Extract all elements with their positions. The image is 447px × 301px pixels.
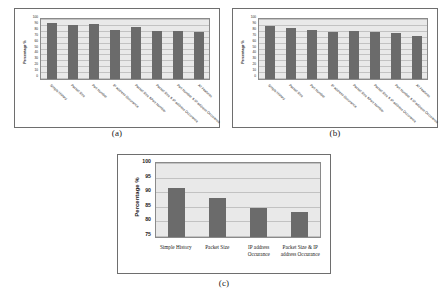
panel-c-plot-area: [155, 162, 321, 238]
y-tick-label: 10: [252, 69, 256, 72]
y-tick-label: 60: [34, 40, 38, 43]
bar: [89, 24, 99, 79]
bar: [370, 32, 380, 79]
bar: [286, 28, 296, 79]
y-tick-label: 100: [142, 159, 151, 164]
panel-a-plot-area: [40, 18, 210, 80]
bar-group: [259, 19, 427, 79]
bar: [209, 198, 226, 237]
x-tick-label: Simple History: [266, 84, 285, 101]
bar: [265, 26, 275, 79]
x-tick-label: Packet Size & IP address Occurance: [373, 84, 417, 124]
y-tick-label: 50: [34, 46, 38, 49]
y-tick-label: 80: [34, 28, 38, 31]
bar-group: [156, 163, 320, 237]
y-tick-label: 90: [252, 22, 256, 25]
y-tick-label: 20: [252, 64, 256, 67]
bar: [47, 23, 57, 79]
y-tick-label: 90: [145, 189, 151, 194]
panel-a: Percentage % 1009080706050403020100 Simp…: [14, 8, 220, 136]
panel-b-y-ticks: 1009080706050403020100: [240, 18, 256, 80]
y-tick-label: 30: [34, 58, 38, 61]
y-tick-label: 50: [252, 46, 256, 49]
y-tick-label: 70: [252, 34, 256, 37]
y-tick-label: 85: [145, 203, 151, 208]
y-tick-label: 80: [252, 28, 256, 31]
panel-b-x-axis-labels: Simple HistoryPacket SizePort NumberIP a…: [258, 82, 428, 128]
bar: [194, 32, 204, 79]
y-tick-label: 90: [34, 22, 38, 25]
x-tick-label: Port Number: [309, 84, 326, 99]
x-tick-label: Simple History: [48, 84, 67, 101]
bar: [168, 188, 185, 237]
y-tick-label: 95: [145, 174, 151, 179]
y-tick-label: 75: [145, 232, 151, 237]
y-tick-label: 70: [34, 34, 38, 37]
x-tick-label: Port Number: [91, 84, 108, 99]
x-tick-label: Packet Size & IP address Occurance: [155, 84, 199, 124]
x-tick-label: Packet Size: [288, 84, 304, 99]
bar: [307, 30, 317, 79]
y-tick-label: 40: [252, 52, 256, 55]
bar: [110, 30, 120, 79]
bar: [152, 31, 162, 79]
bar: [173, 31, 183, 79]
bar: [291, 212, 308, 237]
x-tick-label: Simple History: [155, 244, 197, 251]
panel-c: Percentage % 1009590858075 Simple Histor…: [117, 154, 331, 294]
x-tick-label: IP address Occurance: [238, 244, 280, 257]
y-tick-label: 80: [145, 218, 151, 223]
panel-b-plot-area: [258, 18, 428, 80]
y-tick-label: 0: [36, 75, 38, 78]
bar: [250, 208, 267, 237]
y-tick-label: 100: [33, 16, 38, 19]
y-tick-label: 40: [34, 52, 38, 55]
y-tick-label: 60: [252, 40, 256, 43]
bar: [68, 25, 78, 79]
y-tick-label: 20: [34, 64, 38, 67]
panel-b-caption: (b): [232, 128, 438, 138]
panel-a-caption: (a): [14, 128, 220, 138]
panel-a-y-ticks: 1009080706050403020100: [22, 18, 38, 80]
x-tick-label: Packet Size: [197, 244, 239, 251]
bar: [349, 31, 359, 79]
panel-c-caption: (c): [117, 278, 331, 288]
panel-c-x-axis-labels: Simple HistoryPacket SizeIP address Occu…: [155, 242, 321, 272]
bar: [131, 27, 141, 79]
panel-b: Percentage % 1009080706050403020100 Simp…: [232, 8, 438, 136]
figure-page: { "figure": { "panels": [ { "id": "a", "…: [0, 0, 447, 301]
y-tick-label: 100: [251, 16, 256, 19]
y-tick-label: 30: [252, 58, 256, 61]
y-tick-label: 0: [254, 75, 256, 78]
bar: [412, 36, 422, 79]
bar-group: [41, 19, 209, 79]
x-tick-label: Packet Size: [70, 84, 86, 99]
panel-c-y-ticks: 1009590858075: [131, 162, 151, 238]
bar: [328, 32, 338, 79]
panel-a-x-axis-labels: Simple HistoryPacket SizePort NumberIP a…: [40, 82, 210, 128]
bar: [391, 33, 401, 79]
y-tick-label: 10: [34, 69, 38, 72]
x-tick-label: Packet Size & IP address Occurance: [280, 244, 322, 257]
